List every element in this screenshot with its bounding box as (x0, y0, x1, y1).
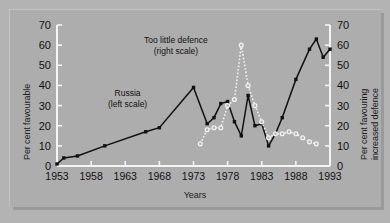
y-tick-label-right: 60 (337, 39, 349, 51)
y-axis-right-label-line1: Per cent favouring (359, 89, 369, 160)
x-tick-label: 1953 (45, 170, 69, 182)
annotation-russia: Russia (left scale) (108, 88, 147, 110)
data-point (76, 154, 79, 157)
y-tick-label-right: 10 (337, 140, 349, 152)
data-point (240, 134, 243, 137)
data-point (246, 94, 249, 97)
annotation-line2: (right scale) (144, 46, 208, 57)
x-tick-label: 1978 (216, 170, 240, 182)
x-tick-label: 1968 (148, 170, 172, 182)
y-tick-label: 10 (39, 140, 51, 152)
data-point (158, 126, 161, 129)
data-point (321, 56, 324, 59)
annotation-line2: (left scale) (108, 99, 147, 110)
data-point (192, 86, 195, 89)
y-tick-label: 20 (39, 120, 51, 132)
x-tick-label: 1988 (284, 170, 308, 182)
annotation-too-little-defence: Too little defence (right scale) (144, 35, 208, 57)
data-point (103, 144, 106, 147)
x-axis-label: Years (0, 190, 390, 200)
data-point (267, 136, 271, 140)
data-point (294, 132, 298, 136)
y-tick-label-right: 50 (337, 59, 349, 71)
data-point (253, 104, 257, 108)
data-point (294, 78, 297, 81)
y-tick-label: 60 (39, 39, 51, 51)
data-point (205, 122, 208, 125)
series-line (200, 45, 316, 144)
y-tick-label-right: 20 (337, 120, 349, 132)
data-point (280, 132, 284, 136)
data-point (233, 98, 237, 102)
y-tick-label: 30 (39, 100, 51, 112)
data-point (314, 142, 318, 146)
y-tick-label-right: 70 (337, 19, 349, 31)
data-point (260, 120, 264, 124)
data-point (212, 116, 215, 119)
data-point (144, 130, 147, 133)
data-point (219, 126, 223, 130)
data-point (274, 132, 278, 136)
data-point (239, 43, 243, 47)
data-point (205, 128, 209, 132)
annotation-line1: Too little defence (144, 35, 208, 46)
y-tick-label: 70 (39, 19, 51, 31)
x-tick-label: 1958 (79, 170, 103, 182)
data-point (301, 136, 305, 140)
data-point (328, 47, 331, 50)
data-point (281, 116, 284, 119)
y-tick-label-right: 40 (337, 79, 349, 91)
data-point (267, 144, 270, 147)
data-point (62, 156, 65, 159)
x-tick-label: 1993 (318, 170, 342, 182)
x-tick-label: 1963 (114, 170, 138, 182)
data-point (233, 120, 236, 123)
data-point (219, 102, 222, 105)
y-tick-label-right: 30 (337, 100, 349, 112)
data-point (226, 100, 229, 103)
data-point (308, 140, 312, 144)
series-line (57, 39, 330, 164)
x-tick-label: 1973 (182, 170, 206, 182)
data-point (212, 126, 216, 130)
data-point (55, 162, 58, 165)
data-point (198, 142, 202, 146)
y-axis-label: Per cent favourable (22, 84, 32, 160)
y-axis-right-label-line2: increased defence (370, 88, 380, 160)
data-point (287, 130, 291, 134)
data-point (253, 124, 256, 127)
data-point (226, 104, 230, 108)
data-point (315, 37, 318, 40)
data-point (308, 47, 311, 50)
y-tick-label: 50 (39, 59, 51, 71)
data-point (246, 84, 250, 88)
x-tick-label: 1983 (250, 170, 274, 182)
annotation-line1: Russia (108, 88, 147, 99)
y-tick-label: 40 (39, 79, 51, 91)
